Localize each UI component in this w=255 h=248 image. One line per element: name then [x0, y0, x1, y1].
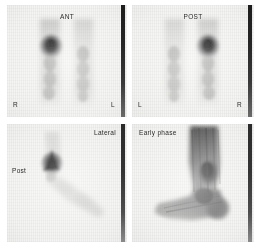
marker-strip-icon	[121, 5, 125, 117]
view-label-early-phase: Early phase	[139, 130, 177, 137]
marker-strip-icon	[248, 5, 252, 117]
scan-panel-anterior[interactable]: ANT R L	[7, 5, 127, 117]
posterior-scan-image	[132, 5, 254, 117]
lateral-scan-image	[7, 124, 127, 242]
marker-strip-icon	[248, 124, 252, 242]
view-label-anterior: ANT	[60, 14, 74, 21]
marker-strip-icon	[121, 124, 125, 242]
side-label-left: L	[111, 102, 115, 109]
orientation-label-posterior: Post	[12, 168, 26, 175]
scan-panel-posterior[interactable]: POST L R	[132, 5, 254, 117]
anterior-scan-image	[7, 5, 127, 117]
side-label-right: R	[13, 102, 18, 109]
side-label-right: R	[237, 102, 242, 109]
side-label-left: L	[138, 102, 142, 109]
early-phase-scan-image	[132, 124, 254, 242]
scan-panel-early-phase[interactable]: Early phase	[132, 124, 254, 242]
view-label-posterior: POST	[184, 14, 203, 21]
scan-panel-lateral[interactable]: Lateral Post	[7, 124, 127, 242]
scintigraphy-figure: ANT R L	[0, 0, 255, 248]
view-label-lateral: Lateral	[94, 130, 116, 137]
